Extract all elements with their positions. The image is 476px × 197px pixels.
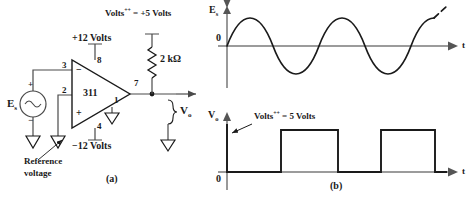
pullup-supply-label: Volts++ = +5 Volts [105, 8, 171, 18]
wire-resistor-to-supply-rail [145, 34, 159, 47]
sine-dashed-tail [434, 7, 446, 18]
square-x-axis-arrowhead [448, 168, 458, 177]
output-level-pointer [232, 124, 252, 133]
chart-output-square [218, 112, 458, 190]
wire-reference-to-ground [58, 95, 72, 136]
negative-supply-label: −12 Volts [72, 141, 111, 151]
chart-input-sine [218, 6, 458, 88]
noninverting-input-sign: + [76, 108, 82, 118]
reference-voltage-label-line2: voltage [24, 169, 52, 178]
output-level-annotation: Volts++ = 5 Volts [254, 111, 315, 121]
source-minus-sign: − [28, 116, 33, 125]
output-voltage-brace [168, 100, 177, 124]
pin-7-number: 7 [134, 79, 139, 88]
pin-4-number: 4 [97, 122, 102, 131]
figure-container: Es + − Reference voltage 3 2 − + 311 8 4… [0, 0, 476, 197]
panel-b-caption: (b) [330, 181, 342, 191]
square-y-axis-label: Vo [208, 110, 218, 123]
resistor-zigzag [148, 47, 156, 78]
output-voltage-label: Vo [180, 105, 192, 119]
opamp-part-number: 311 [83, 88, 97, 98]
source-sine-glyph [25, 101, 41, 107]
pin-2-number: 2 [62, 86, 67, 95]
panel-a-caption: (a) [106, 174, 118, 184]
sine-origin-label: 0 [216, 33, 221, 43]
ground-symbol-pin1 [105, 113, 119, 124]
source-plus-sign: + [28, 80, 33, 89]
ground-symbol-source [26, 136, 40, 148]
pin-8-number: 8 [97, 56, 102, 65]
figure-vector-graphics [0, 0, 476, 197]
pin-3-number: 3 [62, 61, 67, 70]
positive-supply-label: +12 Volts [72, 33, 111, 43]
square-wave-curve [227, 124, 447, 172]
ground-symbol-reference [51, 136, 65, 148]
pin-1-number: 1 [114, 96, 119, 105]
resistor-value-label: 2 kΩ [160, 54, 181, 64]
inverting-input-sign: − [76, 65, 82, 75]
sine-x-axis-arrowhead [448, 42, 458, 51]
sine-x-axis-label: t [462, 41, 465, 50]
source-label: Es [7, 98, 17, 112]
square-y-axis-arrowhead [223, 112, 231, 121]
square-x-axis-label: t [462, 167, 465, 176]
reference-voltage-label-line1: Reference [24, 157, 62, 166]
square-origin-label: 0 [216, 174, 221, 184]
sine-y-axis-arrowhead [223, 6, 231, 14]
ground-symbol-output [161, 140, 175, 151]
sine-y-axis-label: Es [209, 5, 218, 18]
